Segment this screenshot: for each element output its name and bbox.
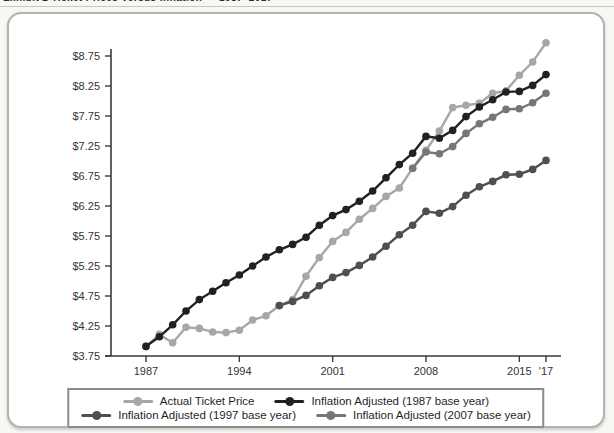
data-point-inflation-adjusted-1987-base-year xyxy=(409,149,417,157)
y-tick-label: $6.25 xyxy=(72,200,100,212)
data-point-inflation-adjusted-1987-base-year xyxy=(209,287,217,295)
data-point-inflation-adjusted-1987-base-year xyxy=(396,161,404,169)
data-point-inflation-adjusted-1987-base-year xyxy=(542,71,550,79)
x-tick-label: 2015 xyxy=(507,365,531,377)
y-tick-label: $8.25 xyxy=(72,80,100,92)
series-line-actual-ticket-price xyxy=(146,43,546,347)
data-point-inflation-adjusted-1997-base-year xyxy=(382,242,390,250)
ticket-price-chart: $3.75$4.25$4.75$5.25$5.75$6.25$6.75$7.25… xyxy=(9,14,614,433)
data-point-inflation-adjusted-1987-base-year xyxy=(449,127,457,135)
line-dot-marker-icon xyxy=(123,396,153,406)
data-point-actual-ticket-price xyxy=(462,101,470,109)
data-point-inflation-adjusted-1997-base-year xyxy=(409,221,417,229)
data-point-inflation-adjusted-1987-base-year xyxy=(316,221,324,229)
legend-label: Inflation Adjusted (1997 base year) xyxy=(118,409,296,421)
data-point-actual-ticket-price xyxy=(516,71,524,79)
data-point-inflation-adjusted-1987-base-year xyxy=(289,241,297,249)
y-tick-label: $3.75 xyxy=(72,350,100,362)
data-point-actual-ticket-price xyxy=(382,193,390,201)
data-point-inflation-adjusted-1987-base-year xyxy=(422,133,430,141)
data-point-inflation-adjusted-1987-base-year xyxy=(156,333,164,341)
data-point-inflation-adjusted-1987-base-year xyxy=(369,187,377,195)
data-point-inflation-adjusted-1997-base-year xyxy=(489,178,497,186)
data-point-actual-ticket-price xyxy=(436,127,444,135)
data-point-inflation-adjusted-2007-base-year xyxy=(502,106,510,114)
data-point-actual-ticket-price xyxy=(329,238,337,246)
page-header-clipped: Exhibit 2 Ticket Prices Versus Inflation… xyxy=(3,0,273,3)
data-point-inflation-adjusted-1987-base-year xyxy=(142,343,150,351)
data-point-inflation-adjusted-1987-base-year xyxy=(476,103,484,111)
data-point-inflation-adjusted-2007-base-year xyxy=(476,120,484,128)
data-point-actual-ticket-price xyxy=(369,205,377,213)
data-point-inflation-adjusted-2007-base-year xyxy=(422,148,430,156)
data-point-inflation-adjusted-1997-base-year xyxy=(449,203,457,211)
line-dot-marker-icon xyxy=(81,410,111,420)
legend-row: Inflation Adjusted (1997 base year)Infla… xyxy=(81,409,530,421)
x-tick-label: 2001 xyxy=(320,365,344,377)
data-point-inflation-adjusted-2007-base-year xyxy=(449,143,457,151)
legend-label: Inflation Adjusted (1987 base year) xyxy=(311,395,489,407)
data-point-actual-ticket-price xyxy=(489,89,497,97)
data-point-actual-ticket-price xyxy=(316,254,324,262)
data-point-inflation-adjusted-2007-base-year xyxy=(489,113,497,121)
data-point-actual-ticket-price xyxy=(249,316,257,324)
legend-label: Actual Ticket Price xyxy=(160,395,255,407)
data-point-inflation-adjusted-1997-base-year xyxy=(436,209,444,217)
data-point-inflation-adjusted-1987-base-year xyxy=(262,253,270,261)
data-point-inflation-adjusted-2007-base-year xyxy=(529,99,537,107)
y-tick-label: $7.25 xyxy=(72,140,100,152)
data-point-actual-ticket-price xyxy=(396,184,404,192)
data-point-inflation-adjusted-1987-base-year xyxy=(276,246,284,254)
x-tick-label: 2008 xyxy=(414,365,438,377)
data-point-actual-ticket-price xyxy=(449,104,457,112)
y-tick-label: $8.75 xyxy=(72,50,100,62)
data-point-inflation-adjusted-1997-base-year xyxy=(529,166,537,174)
data-point-inflation-adjusted-1997-base-year xyxy=(369,253,377,261)
data-point-inflation-adjusted-1997-base-year xyxy=(276,302,284,310)
data-point-inflation-adjusted-1987-base-year xyxy=(249,262,257,270)
data-point-inflation-adjusted-1997-base-year xyxy=(342,269,350,277)
data-point-inflation-adjusted-1987-base-year xyxy=(342,206,350,214)
data-point-inflation-adjusted-1987-base-year xyxy=(236,271,244,279)
data-point-inflation-adjusted-1997-base-year xyxy=(289,298,297,306)
chart-legend: Actual Ticket PriceInflation Adjusted (1… xyxy=(67,388,544,428)
data-point-inflation-adjusted-1987-base-year xyxy=(502,88,510,96)
data-point-inflation-adjusted-1987-base-year xyxy=(462,113,470,121)
data-point-actual-ticket-price xyxy=(356,215,364,223)
data-point-inflation-adjusted-2007-base-year xyxy=(462,130,470,138)
data-point-actual-ticket-price xyxy=(262,312,270,320)
data-point-inflation-adjusted-1997-base-year xyxy=(396,231,404,239)
y-tick-label: $5.75 xyxy=(72,230,100,242)
x-tick-label: '17 xyxy=(539,365,553,377)
x-tick-label: 1994 xyxy=(227,365,251,377)
data-point-actual-ticket-price xyxy=(169,339,177,347)
data-point-inflation-adjusted-1987-base-year xyxy=(382,174,390,182)
data-point-actual-ticket-price xyxy=(302,272,310,280)
data-point-inflation-adjusted-1997-base-year xyxy=(476,183,484,191)
legend-label: Inflation Adjusted (2007 base year) xyxy=(353,409,531,421)
legend-item-inflation-adjusted-1987-base-year: Inflation Adjusted (1987 base year) xyxy=(274,395,489,407)
data-point-actual-ticket-price xyxy=(209,328,217,336)
data-point-inflation-adjusted-1997-base-year xyxy=(329,274,337,282)
data-point-inflation-adjusted-1987-base-year xyxy=(222,279,230,287)
data-point-inflation-adjusted-1987-base-year xyxy=(329,212,337,220)
data-point-inflation-adjusted-1987-base-year xyxy=(529,82,537,90)
header-rule xyxy=(0,6,614,7)
legend-item-inflation-adjusted-1997-base-year: Inflation Adjusted (1997 base year) xyxy=(81,409,296,421)
legend-item-inflation-adjusted-2007-base-year: Inflation Adjusted (2007 base year) xyxy=(316,409,531,421)
data-point-actual-ticket-price xyxy=(236,326,244,334)
data-point-inflation-adjusted-1997-base-year xyxy=(502,171,510,179)
data-point-inflation-adjusted-2007-base-year xyxy=(516,105,524,113)
line-dot-marker-icon xyxy=(316,410,346,420)
line-dot-marker-icon xyxy=(274,396,304,406)
legend-row: Actual Ticket PriceInflation Adjusted (1… xyxy=(81,395,530,407)
data-point-inflation-adjusted-1987-base-year xyxy=(169,321,177,329)
chart-card: $3.75$4.25$4.75$5.25$5.75$6.25$6.75$7.25… xyxy=(7,12,605,428)
data-point-inflation-adjusted-1987-base-year xyxy=(489,96,497,104)
data-point-actual-ticket-price xyxy=(542,39,550,47)
data-point-inflation-adjusted-2007-base-year xyxy=(409,164,417,172)
data-point-inflation-adjusted-1987-base-year xyxy=(302,233,310,241)
data-point-inflation-adjusted-2007-base-year xyxy=(542,89,550,97)
y-tick-label: $7.75 xyxy=(72,110,100,122)
data-point-actual-ticket-price xyxy=(222,329,230,337)
